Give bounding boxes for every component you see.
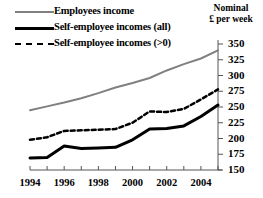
chart-container: Employees income Self-employee incomes (… xyxy=(0,0,263,198)
y-tick-label: 200 xyxy=(228,133,260,144)
plot-area xyxy=(0,0,263,198)
x-tick-label: 2002 xyxy=(150,177,184,188)
y-tick-label: 175 xyxy=(228,148,260,159)
series-line xyxy=(30,89,218,139)
y-tick-label: 250 xyxy=(228,101,260,112)
y-tick-label: 150 xyxy=(228,164,260,175)
x-tick-label: 2004 xyxy=(184,177,218,188)
x-tick-label: 1998 xyxy=(81,177,115,188)
x-tick-label: 2000 xyxy=(116,177,150,188)
y-tick-label: 300 xyxy=(228,70,260,81)
series-line xyxy=(30,105,218,158)
x-tick-label: 1996 xyxy=(47,177,81,188)
x-tick-label: 1994 xyxy=(13,177,47,188)
series-group xyxy=(30,50,218,158)
y-tick-label: 225 xyxy=(228,117,260,128)
y-tick-label: 350 xyxy=(228,38,260,49)
y-tick-label: 275 xyxy=(228,85,260,96)
y-tick-label: 325 xyxy=(228,54,260,65)
series-line xyxy=(30,50,218,110)
